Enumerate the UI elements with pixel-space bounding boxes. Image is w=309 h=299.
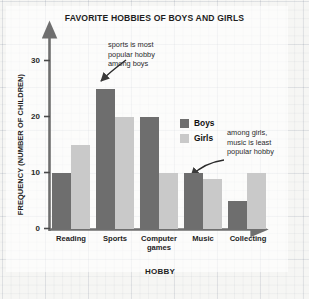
bar-music-boys xyxy=(184,173,203,229)
bar-collecting-boys xyxy=(228,201,247,229)
annotation-line: music is least xyxy=(227,138,309,148)
x-tick-line: games xyxy=(130,243,188,252)
legend-label-boys: Boys xyxy=(194,118,214,128)
bar-reading-boys xyxy=(52,173,71,229)
legend-swatch-girls xyxy=(180,134,189,143)
x-tick-line: Collecting xyxy=(219,234,277,243)
annotation-line: among girls, xyxy=(227,128,309,138)
annotation-line: popular hobby xyxy=(227,147,309,157)
x-tick-label-collecting: Collecting xyxy=(219,234,277,243)
bar-reading-girls xyxy=(71,145,90,229)
annotation-line: sports is most xyxy=(108,40,204,50)
sports-annotation: sports is most popular hobby among boys xyxy=(108,40,204,69)
bars-area xyxy=(0,0,309,229)
music-annotation: among girls, music is least popular hobb… xyxy=(227,128,309,157)
bar-computer-games-boys xyxy=(140,117,159,229)
bar-sports-girls xyxy=(115,117,134,229)
bar-chart: FAVORITE HOBBIES OF BOYS AND GIRLS FREQU… xyxy=(0,0,309,299)
bar-computer-games-girls xyxy=(159,173,178,229)
annotation-line: among boys xyxy=(108,59,204,69)
bar-sports-boys xyxy=(96,89,115,229)
bar-collecting-girls xyxy=(247,173,266,229)
legend-label-girls: Girls xyxy=(194,133,213,143)
bar-music-girls xyxy=(203,179,222,229)
annotation-line: popular hobby xyxy=(108,50,204,60)
legend-swatch-boys xyxy=(180,119,189,128)
